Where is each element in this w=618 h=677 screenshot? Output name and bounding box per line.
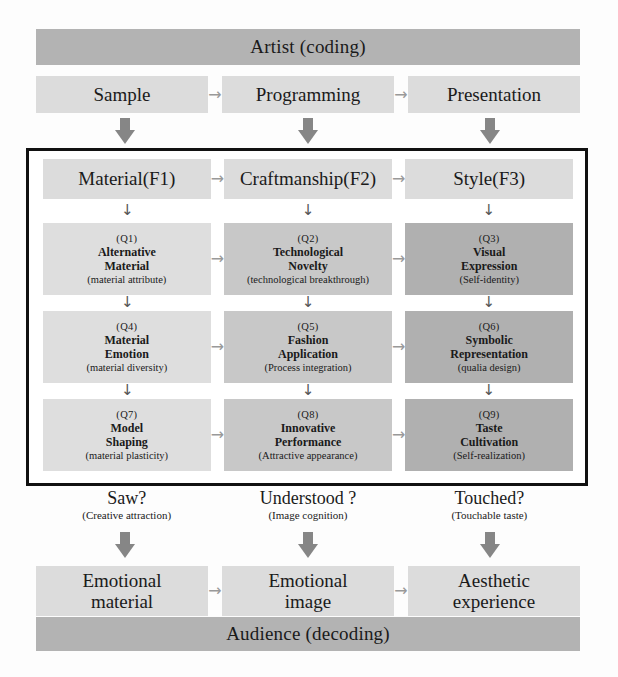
- diagram-canvas: Artist (coding) Sample → Programming → P…: [0, 0, 618, 677]
- stage-arrow-1: →: [208, 76, 222, 113]
- question-title-line2: Expression: [461, 259, 517, 273]
- question-subtitle: (technological breakthrough): [247, 274, 369, 285]
- block-down-arrow-icon: [480, 118, 500, 144]
- question-cell-q8: (Q8) Innovative Performance (Attractive …: [224, 399, 392, 471]
- question-title-line2: Representation: [450, 347, 528, 361]
- block-down-arrow-icon: [115, 532, 135, 558]
- audience-question-sub: (Creative attraction): [82, 509, 171, 521]
- outcome-emotional-material: Emotional material: [36, 566, 208, 616]
- question-arrow-q2-q3: →: [392, 223, 405, 295]
- factor-to-question-arrows: ↓ ↓ ↓: [43, 201, 573, 219]
- question-title-line1: Taste: [476, 421, 503, 435]
- question-number: (Q8): [297, 409, 318, 420]
- audience-question-main: Saw?: [107, 489, 146, 508]
- question-cell-q4: (Q4) Material Emotion (material diversit…: [43, 311, 211, 383]
- question-subtitle: (Self-realization): [453, 450, 525, 461]
- question-row-1: (Q1) Alternative Material (material attr…: [43, 223, 573, 295]
- block-down-arrow-icon: [298, 532, 318, 558]
- down-arrow-icon: ↓: [302, 383, 315, 398]
- audience-question-touched: Touched? (Touchable taste): [399, 489, 580, 529]
- question-arrow-q7-q8: →: [211, 399, 224, 471]
- question-title-line1: Symbolic: [465, 333, 512, 347]
- outcome-line1: Emotional: [268, 570, 347, 591]
- factor-style: Style(F3): [405, 159, 573, 199]
- outcome-line1: Aesthetic: [453, 570, 535, 591]
- question-subtitle: (Self-identity): [459, 274, 518, 285]
- question-number: (Q4): [116, 321, 137, 332]
- question-cell-q6: (Q6) Symbolic Representation (qualia des…: [405, 311, 573, 383]
- audience-question-row: Saw? (Creative attraction) Understood ? …: [36, 489, 580, 529]
- question-title-line2: Emotion: [105, 347, 149, 361]
- outcome-line2: material: [82, 591, 161, 612]
- right-arrow-icon: →: [394, 87, 407, 103]
- question-cell-q7: (Q7) Model Shaping (material plasticity): [43, 399, 211, 471]
- question-cell-q1: (Q1) Alternative Material (material attr…: [43, 223, 211, 295]
- audience-outcome-strip: Emotional material → Emotional image → A…: [36, 566, 580, 616]
- question-title-line1: Fashion: [288, 333, 329, 347]
- question-subtitle: (Process integration): [264, 362, 351, 373]
- question-row-3: (Q7) Model Shaping (material plasticity)…: [43, 399, 573, 471]
- question-row-2: (Q4) Material Emotion (material diversit…: [43, 311, 573, 383]
- outcome-line1: Emotional: [82, 570, 161, 591]
- artist-stage-strip: Sample → Programming → Presentation: [36, 76, 580, 113]
- audience-question-sub: (Image cognition): [268, 509, 347, 521]
- question-subtitle: (material attribute): [87, 274, 166, 285]
- down-arrow-icon: ↓: [302, 295, 315, 310]
- stage-arrow-2: →: [394, 76, 408, 113]
- down-arrow-icon: ↓: [121, 203, 134, 218]
- outcome-line2: image: [268, 591, 347, 612]
- question-subtitle: (material diversity): [86, 362, 167, 373]
- question-subtitle: (Attractive appearance): [259, 450, 358, 461]
- stage-presentation: Presentation: [408, 76, 580, 113]
- question-arrow-q1-q2: →: [211, 223, 224, 295]
- question-title-line1: Technological: [273, 245, 343, 259]
- factor-arrow-2: →: [392, 159, 405, 199]
- right-arrow-icon: →: [392, 427, 405, 443]
- question-title-line1: Model: [111, 421, 144, 435]
- artist-coding-band: Artist (coding): [36, 29, 580, 65]
- block-down-arrow-icon: [480, 532, 500, 558]
- question-number: (Q5): [297, 321, 318, 332]
- down-arrow-icon: ↓: [482, 295, 495, 310]
- question-title-line1: Material: [105, 333, 150, 347]
- artist-coding-label: Artist (coding): [250, 36, 365, 58]
- stage-sample-label: Sample: [94, 84, 151, 105]
- factor-craftmanship: Craftmanship(F2): [224, 159, 392, 199]
- question-cell-q3: (Q3) Visual Expression (Self-identity): [405, 223, 573, 295]
- block-down-arrow-icon: [298, 118, 318, 144]
- right-arrow-icon: →: [392, 171, 405, 187]
- outcome-aesthetic-experience: Aesthetic experience: [408, 566, 580, 616]
- right-arrow-icon: →: [208, 583, 221, 599]
- factor-material: Material(F1): [43, 159, 211, 199]
- stage-programming: Programming: [222, 76, 394, 113]
- audience-decoding-band: Audience (decoding): [36, 617, 580, 651]
- question-title-line2: Novelty: [288, 259, 327, 273]
- stage-programming-label: Programming: [256, 84, 361, 105]
- question-number: (Q1): [116, 233, 137, 244]
- down-arrow-icon: ↓: [302, 203, 315, 218]
- factor-style-label: Style(F3): [453, 168, 525, 190]
- factor-craftmanship-label: Craftmanship(F2): [240, 168, 376, 190]
- audience-question-main: Touched?: [454, 489, 524, 508]
- right-arrow-icon: →: [392, 251, 405, 267]
- outcome-arrow-2: →: [394, 566, 408, 616]
- factor-header-row: Material(F1) → Craftmanship(F2) → Style(…: [43, 159, 573, 199]
- block-down-arrow-icon: [115, 118, 135, 144]
- question-title-line2: Material: [105, 259, 150, 273]
- down-arrow-icon: ↓: [482, 203, 495, 218]
- question-subtitle: (qualia design): [458, 362, 521, 373]
- question-arrow-q5-q6: →: [392, 311, 405, 383]
- question-title-line2: Shaping: [106, 435, 148, 449]
- right-arrow-icon: →: [392, 339, 405, 355]
- question-number: (Q9): [479, 409, 500, 420]
- down-arrow-icon: ↓: [121, 383, 134, 398]
- question-title-line2: Cultivation: [460, 435, 518, 449]
- outcome-arrow-1: →: [208, 566, 222, 616]
- question-subtitle: (material plasticity): [86, 450, 169, 461]
- question-row-2-to-3-arrows: ↓ ↓ ↓: [43, 381, 573, 399]
- question-row-1-to-2-arrows: ↓ ↓ ↓: [43, 293, 573, 311]
- question-title-line1: Alternative: [98, 245, 156, 259]
- question-arrow-q4-q5: →: [211, 311, 224, 383]
- factor-arrow-1: →: [211, 159, 224, 199]
- question-title-line1: Innovative: [281, 421, 336, 435]
